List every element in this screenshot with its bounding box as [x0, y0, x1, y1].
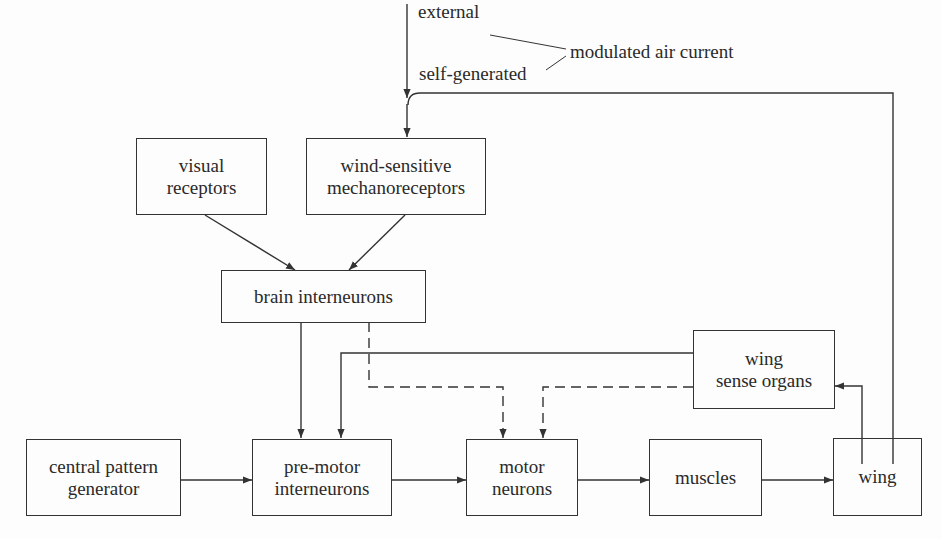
- node-label: interneurons: [275, 478, 370, 500]
- node-label: generator: [49, 478, 158, 500]
- flight-control-diagram: external self-generated modulated air cu…: [0, 0, 942, 539]
- node-motor-neurons: motor neurons: [466, 439, 578, 516]
- arrow-brain-to-motor-dashed: [369, 322, 503, 438]
- node-label: sense organs: [716, 370, 812, 392]
- node-label: wind-sensitive: [327, 155, 465, 177]
- node-visual-receptors: visual receptors: [136, 138, 267, 215]
- node-label: central pattern: [49, 456, 158, 478]
- node-muscles: muscles: [649, 439, 762, 516]
- node-label: motor: [492, 456, 552, 478]
- node-label: wing: [716, 348, 812, 370]
- label-self-generated: self-generated: [419, 64, 527, 84]
- label-external: external: [418, 2, 479, 22]
- arrow-senseorgans-to-motor-dashed: [543, 387, 693, 438]
- arrow-visual-to-brain: [205, 215, 295, 270]
- node-label: receptors: [167, 177, 237, 199]
- node-label: muscles: [675, 467, 736, 489]
- node-label: mechanoreceptors: [327, 177, 465, 199]
- node-wing: wing: [833, 438, 922, 516]
- line-selfgen-label: [546, 56, 566, 70]
- node-label: wing: [859, 466, 897, 488]
- arrow-senseorgans-to-premotor: [341, 353, 693, 438]
- arrow-wind-to-brain: [349, 215, 405, 270]
- node-label: brain interneurons: [254, 286, 393, 308]
- node-wing-sense-organs: wing sense organs: [693, 330, 835, 409]
- node-label: pre-motor: [275, 456, 370, 478]
- node-label: neurons: [492, 478, 552, 500]
- node-label: visual: [167, 155, 237, 177]
- node-wind-sensitive-mechanoreceptors: wind-sensitive mechanoreceptors: [306, 138, 486, 215]
- node-central-pattern-generator: central pattern generator: [26, 439, 181, 516]
- line-external-label: [490, 35, 566, 49]
- node-brain-interneurons: brain interneurons: [221, 270, 426, 323]
- node-pre-motor-interneurons: pre-motor interneurons: [252, 439, 392, 516]
- label-modulated-air-current: modulated air current: [570, 42, 734, 62]
